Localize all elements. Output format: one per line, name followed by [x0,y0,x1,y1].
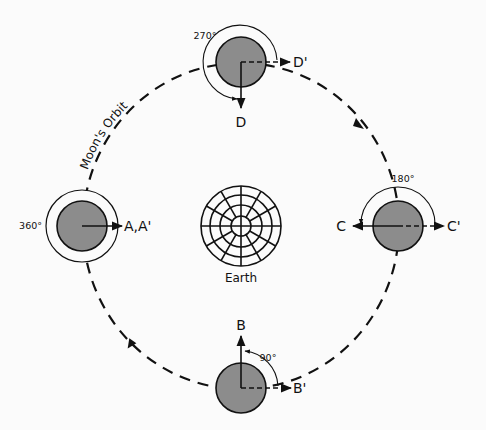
orbit-label: Moon's Orbit [77,99,130,172]
moon-orbit-diagram: Moon's Orbit Earth 360° A,A' 90° B B' [0,0,486,430]
arrow-label-d-prime: D' [293,54,308,70]
arrow-label-c-prime: C' [447,218,461,234]
moon-position-180 [353,187,444,251]
arrow-label-d: D [236,114,247,130]
moon-position-360 [46,190,122,262]
arrow-label-b-prime: B' [293,380,306,396]
earth-icon [201,186,281,266]
angle-label-90: 90° [260,352,277,363]
arrow-label-a: A,A' [124,218,151,234]
moon-position-90 [216,336,291,413]
earth-label: Earth [225,271,257,285]
angle-label-180: 180° [392,173,415,184]
arrow-label-b: B [236,317,246,333]
arrow-label-c: C [336,218,346,234]
orbit-direction-arrow-upper-right [353,118,364,129]
angle-label-270: 270° [194,30,217,41]
angle-label-360: 360° [19,220,42,231]
